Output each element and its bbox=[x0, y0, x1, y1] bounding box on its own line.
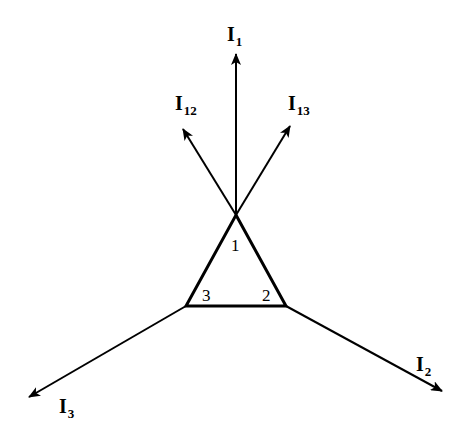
arrow-i13 bbox=[236, 126, 290, 215]
label-i12: I12 bbox=[175, 93, 197, 113]
node-label-3: 3 bbox=[202, 287, 211, 304]
label-i13-sub: 13 bbox=[297, 103, 310, 118]
label-i1-main: I bbox=[227, 23, 235, 45]
arrow-i2 bbox=[286, 306, 442, 391]
label-i3-sub: 3 bbox=[68, 406, 75, 421]
label-i12-sub: 12 bbox=[184, 103, 197, 118]
node-label-1: 1 bbox=[231, 237, 240, 254]
label-i13-main: I bbox=[288, 92, 296, 114]
label-i1-sub: 1 bbox=[236, 34, 243, 49]
label-i12-main: I bbox=[175, 92, 183, 114]
delta-triangle bbox=[186, 215, 286, 306]
diagram-canvas bbox=[0, 0, 461, 424]
node-label-2: 2 bbox=[262, 287, 271, 304]
label-i3-main: I bbox=[59, 395, 67, 417]
label-i2-sub: 2 bbox=[425, 364, 432, 379]
arrow-i12 bbox=[183, 129, 236, 215]
label-i13: I13 bbox=[288, 93, 310, 113]
label-i2-main: I bbox=[416, 353, 424, 375]
label-i1: I1 bbox=[227, 24, 242, 44]
label-i3: I3 bbox=[59, 396, 74, 416]
label-i2: I2 bbox=[416, 354, 431, 374]
arrow-i3 bbox=[29, 306, 186, 397]
